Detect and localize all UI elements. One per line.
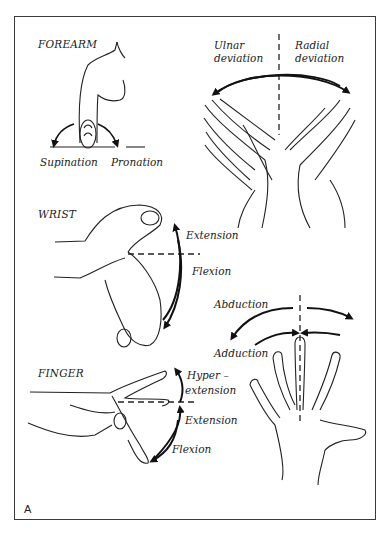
finger-title: FINGER — [38, 367, 84, 379]
panel-letter: A — [24, 503, 31, 515]
wrist-extension-label: Extension — [186, 229, 239, 241]
forearm-illustration — [50, 42, 145, 148]
adduction-label: Adduction — [214, 347, 268, 359]
wrist-title: WRIST — [38, 208, 76, 220]
forearm-title: FOREARM — [38, 38, 97, 50]
finger-flexion-label: Flexion — [172, 443, 211, 455]
hyperextension-label-line2: extension — [185, 384, 236, 396]
ulnar-label-line2: deviation — [214, 52, 263, 64]
pronation-label: Pronation — [111, 156, 163, 168]
wrist-flexion-illustration — [54, 205, 200, 347]
hyperextension-label-line1: Hyper – — [187, 369, 229, 381]
radial-label-line2: deviation — [295, 52, 344, 64]
abduction-label: Abduction — [214, 298, 268, 310]
finger-extension-label: Extension — [185, 414, 238, 426]
finger-abduction-illustration — [232, 295, 366, 485]
finger-flexion-illustration — [28, 370, 195, 463]
supination-label: Supination — [40, 156, 98, 168]
wrist-flexion-label: Flexion — [192, 265, 231, 277]
radial-label-line1: Radial — [295, 39, 329, 51]
ulnar-label-line1: Ulnar — [214, 39, 244, 51]
